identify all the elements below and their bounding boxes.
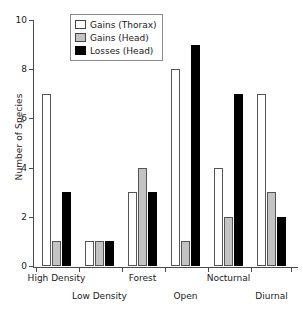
x-axis-category-label: Open [173,291,197,301]
x-axis-category-label: High Density [28,273,86,283]
bar [214,168,223,266]
y-tick-mark [29,20,33,21]
chart-legend: Gains (Thorax)Gains (Head)Losses (Head) [70,14,163,61]
y-tick-label: 4 [21,163,27,173]
bar-chart-figure: Number of Species 0246810 High DensityLo… [0,0,303,311]
y-tick-label: 2 [21,212,27,222]
y-axis-title: Number of Species [14,67,24,207]
bar [191,45,200,266]
x-tick-mark [291,267,292,272]
legend-label: Gains (Head) [90,33,149,43]
bar [181,241,190,266]
y-tick-label: 8 [21,64,27,74]
bar [224,217,233,266]
y-tick-mark [29,69,33,70]
x-axis-category-label: Low Density [72,291,127,301]
x-tick-mark [165,267,166,272]
bar [95,241,104,266]
bar [62,192,71,266]
bar [234,94,243,266]
x-axis-category-label: Diurnal [255,291,287,301]
bar [42,94,51,266]
y-tick-mark [29,118,33,119]
y-tick-label: 0 [21,261,27,271]
y-tick-label: 6 [21,113,27,123]
x-axis-category-label: Forest [129,273,157,283]
legend-item: Gains (Thorax) [75,18,157,31]
x-tick-mark [36,267,37,272]
bar [171,69,180,266]
legend-swatch-icon [75,46,86,55]
y-tick-mark [29,266,33,267]
y-tick-mark [29,168,33,169]
bar [128,192,137,266]
legend-item: Losses (Head) [75,44,157,57]
y-tick-label: 10 [16,15,27,25]
x-tick-mark [208,267,209,272]
x-tick-mark [251,267,252,272]
bar [257,94,266,266]
x-tick-mark [122,267,123,272]
legend-swatch-icon [75,33,86,42]
bar [138,168,147,266]
legend-label: Gains (Thorax) [90,20,157,30]
bar [105,241,114,266]
x-axis-category-label: Nocturnal [207,273,251,283]
bar [85,241,94,266]
bar [148,192,157,266]
x-tick-mark [79,267,80,272]
bar [277,217,286,266]
legend-swatch-icon [75,20,86,29]
legend-label: Losses (Head) [90,46,153,56]
bar [52,241,61,266]
y-tick-mark [29,217,33,218]
legend-item: Gains (Head) [75,31,157,44]
y-axis-line [33,20,34,268]
bar [267,192,276,266]
